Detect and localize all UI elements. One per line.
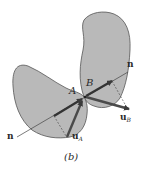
label-normal-start: n: [7, 132, 14, 141]
contact-point: [84, 96, 87, 99]
label-point-a: A: [69, 86, 76, 96]
label-u-b: uB: [120, 113, 131, 123]
label-u-a-subscript: A: [79, 135, 83, 142]
label-point-b: B: [86, 78, 93, 88]
label-u-a: uA: [72, 132, 83, 142]
label-u-b-subscript: B: [127, 116, 131, 123]
body-b-shape: [80, 12, 130, 108]
figure-caption: (b): [64, 152, 78, 162]
label-normal-end: n: [127, 60, 134, 69]
